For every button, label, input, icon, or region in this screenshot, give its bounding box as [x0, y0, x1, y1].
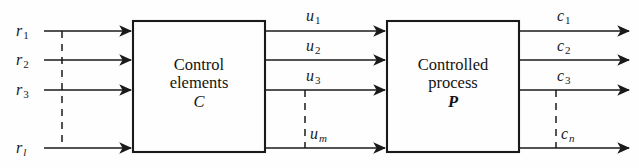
- output-label-cn: cn: [561, 126, 575, 144]
- control-signal-label-u3-base: u: [306, 67, 314, 84]
- control-signal-label-u3: u3: [306, 68, 321, 86]
- output-label-c1-subscript: 1: [564, 14, 571, 26]
- output-label-c3: c3: [557, 68, 571, 86]
- control-signal-label-um: um: [310, 126, 327, 144]
- controlled-process-line2: process: [428, 73, 477, 92]
- input-label-r1: r1: [16, 23, 29, 41]
- input-label-r2: r2: [16, 52, 29, 70]
- input-label-rl-subscript: l: [22, 146, 26, 158]
- input-label-r1-subscript: 1: [22, 29, 29, 41]
- output-label-c3-subscript: 3: [564, 74, 571, 86]
- control-signal-label-u1-base: u: [306, 7, 314, 24]
- input-label-r2-subscript: 2: [22, 58, 29, 70]
- control-elements-line2: elements: [170, 73, 229, 92]
- control-elements-block-text: Control elements C: [133, 56, 265, 111]
- control-signal-label-u2-base: u: [306, 37, 314, 54]
- input-label-rl: rl: [16, 140, 26, 158]
- output-label-c2-subscript: 2: [564, 44, 571, 56]
- control-signal-label-u2-subscript: 2: [314, 44, 321, 56]
- output-label-c1: c1: [557, 8, 571, 26]
- output-label-c2: c2: [557, 38, 571, 56]
- output-label-cn-subscript: n: [568, 132, 575, 144]
- control-signal-label-u2: u2: [306, 38, 321, 56]
- control-signal-label-um-subscript: m: [318, 132, 327, 144]
- control-elements-line1: Control: [174, 55, 224, 74]
- control-elements-symbol: C: [133, 93, 265, 111]
- figure-canvas: r1 r2 r3 rl u1 u2 u3 um c1 c2 c3 cn Cont…: [0, 0, 639, 168]
- input-label-r3-subscript: 3: [22, 88, 29, 100]
- controlled-process-symbol: P: [387, 93, 519, 111]
- control-signal-label-u1-subscript: 1: [314, 14, 321, 26]
- input-label-r3: r3: [16, 82, 29, 100]
- control-signal-label-u3-subscript: 3: [314, 74, 321, 86]
- control-signal-label-u1: u1: [306, 8, 321, 26]
- controlled-process-block-text: Controlled process P: [387, 56, 519, 111]
- control-signal-label-um-base: u: [310, 125, 318, 142]
- controlled-process-line1: Controlled: [418, 55, 489, 74]
